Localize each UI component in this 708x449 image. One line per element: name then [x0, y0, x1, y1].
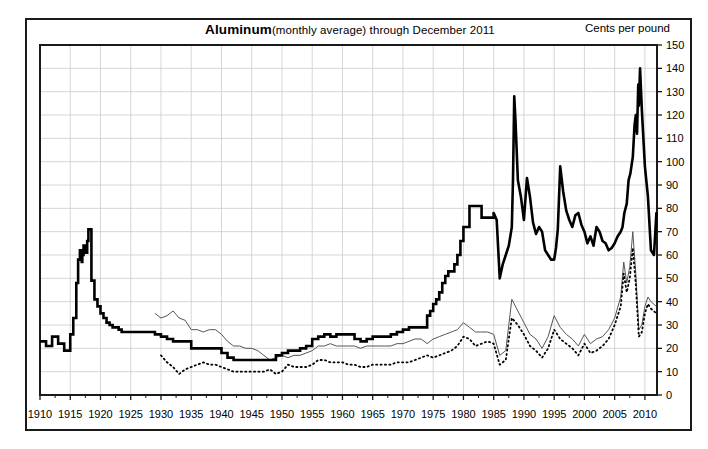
svg-text:80: 80: [666, 202, 678, 214]
svg-text:1920: 1920: [88, 408, 112, 420]
svg-text:30: 30: [666, 319, 678, 331]
svg-text:1915: 1915: [58, 408, 82, 420]
svg-text:1940: 1940: [209, 408, 233, 420]
svg-text:1935: 1935: [179, 408, 203, 420]
grid-lines: [40, 45, 657, 395]
svg-text:130: 130: [666, 86, 684, 98]
svg-text:1960: 1960: [330, 408, 354, 420]
svg-text:60: 60: [666, 249, 678, 261]
svg-text:0: 0: [666, 389, 672, 401]
axis-ticks: [40, 45, 662, 400]
svg-text:10: 10: [666, 366, 678, 378]
svg-text:120: 120: [666, 109, 684, 121]
svg-text:1930: 1930: [149, 408, 173, 420]
svg-text:90: 90: [666, 179, 678, 191]
svg-text:1985: 1985: [481, 408, 505, 420]
svg-text:20: 20: [666, 342, 678, 354]
svg-text:110: 110: [666, 132, 684, 144]
svg-text:1950: 1950: [270, 408, 294, 420]
svg-text:1975: 1975: [421, 408, 445, 420]
y-axis-tick-labels: 0102030405060708090100110120130140150: [666, 39, 684, 401]
svg-text:1955: 1955: [300, 408, 324, 420]
svg-text:1990: 1990: [512, 408, 536, 420]
svg-text:140: 140: [666, 62, 684, 74]
series-dotted-line: [161, 248, 656, 374]
svg-text:2010: 2010: [633, 408, 657, 420]
svg-text:1980: 1980: [451, 408, 475, 420]
svg-text:50: 50: [666, 272, 678, 284]
svg-text:100: 100: [666, 156, 684, 168]
svg-text:1995: 1995: [542, 408, 566, 420]
aluminum-price-chart: Aluminum(monthly average) through Decemb…: [0, 0, 708, 449]
series-nominal-line: [40, 68, 656, 360]
svg-text:1965: 1965: [360, 408, 384, 420]
svg-text:2000: 2000: [572, 408, 596, 420]
svg-text:1925: 1925: [118, 408, 142, 420]
series-thin-line: [155, 232, 656, 360]
svg-text:150: 150: [666, 39, 684, 51]
svg-text:2005: 2005: [602, 408, 626, 420]
svg-text:1945: 1945: [239, 408, 263, 420]
x-axis-tick-labels: 1910191519201925193019351940194519501955…: [28, 408, 657, 420]
svg-text:1910: 1910: [28, 408, 52, 420]
plot-frame: [40, 45, 657, 395]
svg-text:1970: 1970: [391, 408, 415, 420]
svg-text:40: 40: [666, 296, 678, 308]
plot-svg: 0102030405060708090100110120130140150 19…: [0, 0, 708, 449]
svg-text:70: 70: [666, 226, 678, 238]
